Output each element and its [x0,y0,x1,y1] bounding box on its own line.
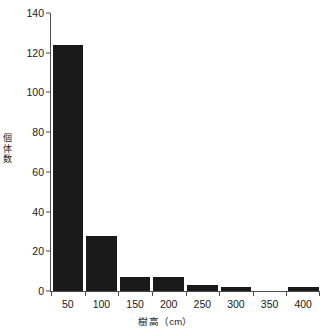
plot-area [51,13,320,291]
x-tick-label: 100 [93,298,111,310]
y-tick-label: 60 [18,166,44,178]
bar [288,287,319,291]
x-tick-mark [286,292,287,296]
x-tick-mark [219,292,220,296]
bar-slot [186,13,220,291]
y-tick-label: 120 [18,47,44,59]
y-tick-label: 100 [18,86,44,98]
bar [153,277,184,291]
x-tick-label: 150 [126,298,144,310]
y-tick-label: 20 [18,245,44,257]
y-axis-tick-labels: 020406080100120140 [14,0,44,335]
x-tick-label: 300 [227,298,245,310]
x-tick-mark [85,292,86,296]
bar-slot [253,13,287,291]
y-tick-label: 40 [18,206,44,218]
bar [86,236,117,291]
x-tick-label: 250 [194,298,212,310]
bar-slot [152,13,186,291]
x-axis-title: 樹高（cm） [0,314,331,328]
x-tick-label: 50 [62,298,74,310]
bar [53,45,84,291]
bar-slot [118,13,152,291]
x-axis-tick-marks [51,292,320,297]
x-tick-label: 400 [294,298,312,310]
x-tick-label: 350 [261,298,279,310]
x-axis-tick-labels: 50100150200250300350400 [51,298,320,312]
x-tick-label: 200 [160,298,178,310]
bar [187,285,218,291]
x-tick-mark [152,292,153,296]
y-axis-title-char: 数 [0,154,14,165]
y-axis-title-char: 個 [0,133,14,144]
bar-slot [219,13,253,291]
bar [221,287,252,291]
bar-slot [85,13,119,291]
y-axis-title: 個体数 [0,133,14,165]
x-tick-mark [51,292,52,296]
bar-slot [286,13,320,291]
y-tick-label: 140 [18,7,44,19]
histogram-figure: 個体数 020406080100120140 50100150200250300… [0,0,331,335]
x-tick-mark [253,292,254,296]
y-tick-label: 80 [18,126,44,138]
bar [120,277,151,291]
bar-slot [51,13,85,291]
x-tick-mark [319,292,320,296]
y-axis-title-char: 体 [0,144,14,155]
y-tick-label: 0 [18,285,44,297]
x-tick-mark [118,292,119,296]
x-tick-mark [186,292,187,296]
